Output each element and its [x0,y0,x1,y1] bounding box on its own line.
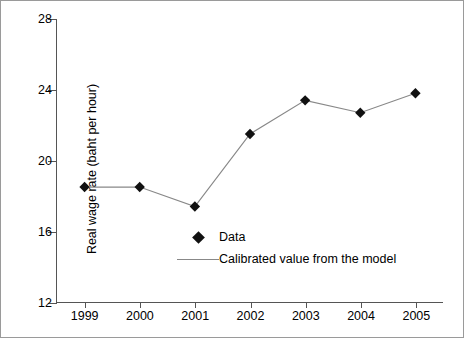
x-tick-mark [85,302,86,308]
x-tick-label: 2005 [402,310,430,323]
x-tick-mark [195,302,196,308]
data-point-marker [410,88,420,98]
data-point-marker [245,129,255,139]
y-tick-label: 28 [38,13,52,26]
data-point-marker [135,182,145,192]
data-point-marker [300,95,310,105]
x-tick-label: 2004 [347,310,375,323]
chart-figure: Real wage rate (baht per hour) 282420161… [0,0,464,338]
data-point-markers [79,88,420,212]
x-tick-mark [140,302,141,308]
data-point-marker [190,201,200,211]
x-tick-label: 2003 [292,310,320,323]
y-tick-label: 16 [38,226,52,239]
x-tick-label: 1999 [71,310,99,323]
chart-legend: Data Calibrated value from the model [177,226,417,270]
legend-label-data: Data [219,231,245,244]
x-tick-mark [361,302,362,308]
x-tick-mark [306,302,307,308]
y-tick-label: 20 [38,155,52,168]
legend-item-calibrated: Calibrated value from the model [177,248,417,270]
legend-label-calibrated: Calibrated value from the model [219,253,396,266]
x-tick-label: 2000 [126,310,154,323]
y-tick-label: 24 [38,84,52,97]
y-tick-label: 12 [38,297,52,310]
calibrated-value-line [85,93,416,206]
diamond-marker-icon [177,233,219,242]
data-point-marker [355,108,365,118]
data-point-marker [79,182,89,192]
x-tick-mark [416,302,417,308]
x-tick-label: 2001 [181,310,209,323]
legend-item-data: Data [177,226,417,248]
line-swatch-icon [177,259,219,260]
x-tick-mark [251,302,252,308]
x-tick-label: 2002 [237,310,265,323]
